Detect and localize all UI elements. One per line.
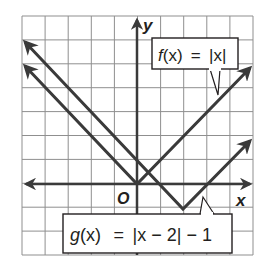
svg-text:g(x) = |x − 2| − 1: g(x) = |x − 2| − 1 — [70, 225, 212, 245]
function-g-label: g(x) = |x − 2| − 1 — [63, 197, 232, 253]
y-axis-label: y — [142, 16, 154, 35]
function-f-label: f(x) = |x| — [152, 38, 238, 95]
svg-text:f(x) = |x|: f(x) = |x| — [158, 46, 226, 65]
x-axis-label: x — [235, 191, 247, 210]
origin-label: O — [117, 190, 130, 207]
coordinate-graph: x y O f(x) = |x| g(x) = |x − 2| − 1 — [0, 0, 268, 266]
